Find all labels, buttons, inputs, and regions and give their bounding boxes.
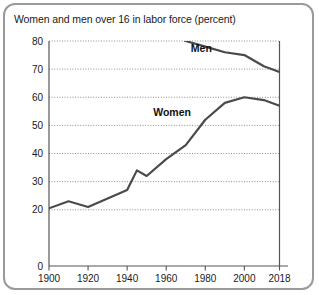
y-axis-tick-label: 30: [32, 176, 44, 187]
x-axis-tick-label: 2000: [233, 273, 256, 284]
y-axis-tick-label: 40: [32, 148, 44, 159]
line-chart: 020304050607080 190019201940196019802000…: [0, 0, 319, 295]
plot-area: 020304050607080 190019201940196019802000…: [0, 0, 319, 295]
x-axis-tick-label: 1980: [194, 273, 217, 284]
y-axis-tick-label: 50: [32, 120, 44, 131]
series-line-men: [49, 24, 280, 72]
x-axis-tick-marks: [49, 266, 280, 271]
y-axis-tick-label: 20: [32, 204, 44, 215]
y-axis-tick-labels: 020304050607080: [32, 36, 44, 272]
x-axis-tick-label: 1900: [38, 273, 61, 284]
x-axis-tick-label: 1960: [155, 273, 178, 284]
x-axis-tick-label: 2018: [268, 273, 291, 284]
y-axis-tick-label: 80: [32, 36, 44, 47]
series-label-men: Men: [191, 42, 212, 54]
y-axis-tick-label: 0: [37, 261, 43, 272]
series-labels: MenWomen: [153, 42, 212, 119]
x-axis-tick-label: 1920: [77, 273, 100, 284]
series-label-women: Women: [153, 106, 191, 118]
x-axis-tick-labels: 1900192019401960198020002018: [38, 273, 291, 284]
y-axis-tick-label: 70: [32, 64, 44, 75]
y-axis-tick-label: 60: [32, 92, 44, 103]
gridlines: [49, 41, 280, 210]
x-axis-tick-label: 1940: [116, 273, 139, 284]
